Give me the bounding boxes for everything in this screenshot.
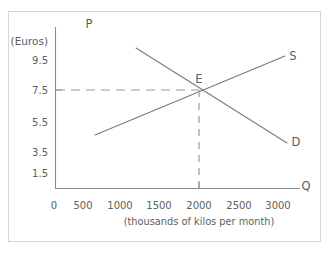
y-tick-label-3-5: 3.5 [32,147,48,158]
supply-curve [95,56,285,135]
x-tick-label-3000: 3000 [265,200,290,211]
x-axis-name: Q [301,179,310,193]
supply-demand-chart: P (Euros) Q 9.5 7.5 5.5 3.5 1.5 0 500 10… [0,0,336,255]
demand-curve-label: D [292,135,301,149]
y-axis-name: P [86,17,93,31]
y-axis-unit-label: (Euros) [11,35,48,47]
equilibrium-point-label: E [195,72,202,86]
y-tick-label-1-5: 1.5 [32,168,48,179]
y-tick-label-7-5: 7.5 [32,85,48,96]
x-axis-caption: (thousands of kilos per month) [124,216,275,227]
x-tick-label-2000: 2000 [186,200,211,211]
figure-container: P (Euros) Q 9.5 7.5 5.5 3.5 1.5 0 500 10… [0,0,336,255]
x-tick-label-500: 500 [73,200,92,211]
supply-curve-label: S [289,49,296,63]
demand-curve [136,48,287,143]
y-tick-label-9-5: 9.5 [32,55,48,66]
x-tick-label-1500: 1500 [146,200,171,211]
y-tick-label-5-5: 5.5 [32,117,48,128]
x-tick-label-0: 0 [51,200,57,211]
x-tick-label-1000: 1000 [107,200,132,211]
x-tick-label-2500: 2500 [226,200,251,211]
